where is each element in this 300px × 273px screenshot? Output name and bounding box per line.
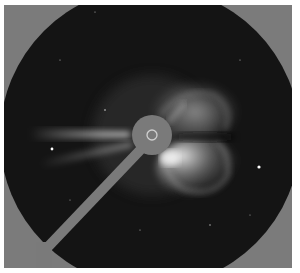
coronagraph-svg [4,5,292,268]
star [51,148,54,151]
star [257,165,260,168]
occulting-disk [132,115,172,155]
star [104,109,106,111]
coronagraph-image [4,5,292,268]
star [59,59,60,60]
star [239,59,240,60]
star [209,224,210,225]
